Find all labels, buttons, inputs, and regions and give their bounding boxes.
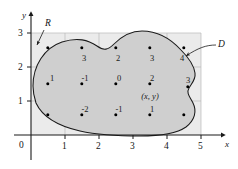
x-tick-label-2: 2 [96,142,101,152]
x-axis-label: x [225,140,229,149]
sample-value-label: 1 [150,105,154,114]
y-tick-label-2: 2 [18,63,23,73]
sample-value-label: -2 [81,105,88,114]
y-axis-label: y [22,11,26,20]
sample-value-label: 3 [186,76,190,85]
region-label-D: D [218,40,225,50]
y-axis-ticks [27,33,31,101]
origin-label: 0 [19,141,24,151]
x-tick-label-5: 5 [198,142,203,152]
sample-value-label: 4 [180,54,184,63]
rectangle-label-R: R [45,19,51,29]
sample-value-label: 0 [117,74,121,83]
sample-value-label: -1 [115,105,122,114]
sample-value-label: 1 [50,74,54,83]
sample-value-label: 2 [116,54,120,63]
sample-value-label: 2 [150,74,154,83]
sample-value-label: 3 [82,54,86,63]
figure-double-integral-region: y x 0 1 2 3 4 5 1 2 3 R D (x, y) 3 2 3 4… [0,0,238,169]
x-tick-label-1: 1 [62,142,67,152]
y-tick-label-3: 3 [18,29,23,39]
x-tick-label-4: 4 [164,142,169,152]
sample-point-coordinate-label: (x, y) [141,92,158,101]
x-tick-label-3: 3 [130,142,135,152]
sample-value-label: -1 [81,74,88,83]
sample-value-label: 3 [150,54,154,63]
x-axis-ticks [65,135,201,139]
y-tick-label-1: 1 [18,97,23,107]
